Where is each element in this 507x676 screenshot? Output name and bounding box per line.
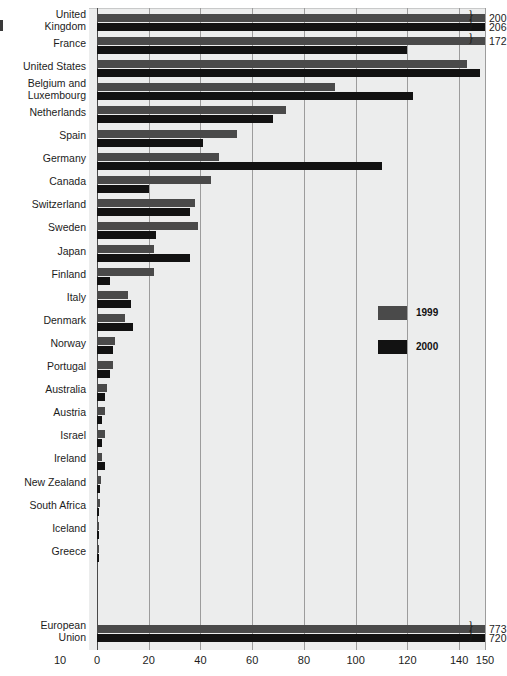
bar bbox=[97, 430, 105, 438]
x-tick-label-extra: 10 bbox=[40, 654, 80, 666]
bar bbox=[97, 83, 335, 91]
x-tick-label-100: 100 bbox=[336, 654, 376, 666]
category-label: United Kingdom bbox=[0, 9, 86, 32]
bar bbox=[97, 439, 102, 447]
category-label: Portugal bbox=[0, 361, 86, 373]
bar bbox=[97, 499, 100, 507]
gridline-20 bbox=[149, 8, 150, 650]
gridline-60 bbox=[252, 8, 253, 650]
bar bbox=[97, 407, 105, 415]
bar bbox=[97, 37, 485, 45]
bar bbox=[97, 92, 413, 100]
x-tick-label-120: 120 bbox=[387, 654, 427, 666]
category-label: Sweden bbox=[0, 222, 86, 234]
bar bbox=[97, 69, 480, 77]
x-tick-label-20: 20 bbox=[129, 654, 169, 666]
legend-swatch-1999 bbox=[378, 306, 407, 320]
x-tick-label-150: 150 bbox=[465, 654, 505, 666]
category-label: Spain bbox=[0, 130, 86, 142]
bar bbox=[97, 545, 99, 553]
bar bbox=[97, 314, 125, 322]
category-label: Belgium and Luxembourg bbox=[0, 78, 86, 101]
bar bbox=[97, 384, 107, 392]
category-label: Italy bbox=[0, 292, 86, 304]
bar bbox=[97, 393, 105, 401]
category-label: Switzerland bbox=[0, 199, 86, 211]
overflow-value-label: 206 bbox=[489, 23, 507, 32]
category-label: Finland bbox=[0, 269, 86, 281]
bar bbox=[97, 554, 99, 562]
bar bbox=[97, 106, 286, 114]
bar bbox=[97, 231, 156, 239]
bar bbox=[97, 153, 219, 161]
category-label: European Union bbox=[0, 620, 86, 643]
legend-label-1999: 1999 bbox=[416, 307, 438, 318]
bar bbox=[97, 370, 110, 378]
x-tick-label-40: 40 bbox=[180, 654, 220, 666]
bar bbox=[97, 323, 133, 331]
bar bbox=[97, 300, 131, 308]
category-label: Iceland bbox=[0, 523, 86, 535]
bar bbox=[97, 337, 115, 345]
bar bbox=[97, 416, 102, 424]
category-label: Japan bbox=[0, 246, 86, 258]
category-label: Denmark bbox=[0, 315, 86, 327]
bar bbox=[97, 522, 99, 530]
bar bbox=[97, 46, 407, 54]
gridline-100 bbox=[356, 8, 357, 650]
x-tick-label-80: 80 bbox=[284, 654, 324, 666]
bar bbox=[97, 245, 154, 253]
legend-label-2000: 2000 bbox=[416, 341, 438, 352]
bar bbox=[97, 361, 113, 369]
bar bbox=[97, 476, 101, 484]
category-label: Norway bbox=[0, 338, 86, 350]
category-label: Germany bbox=[0, 153, 86, 165]
bar bbox=[97, 531, 99, 539]
bar bbox=[97, 14, 485, 22]
legend-swatch-2000 bbox=[378, 340, 407, 354]
bar bbox=[97, 208, 190, 216]
bar bbox=[97, 185, 149, 193]
bar bbox=[97, 222, 198, 230]
axis-break-mark: } bbox=[468, 34, 474, 42]
bar bbox=[97, 60, 467, 68]
bar bbox=[97, 634, 485, 642]
x-tick-label-60: 60 bbox=[232, 654, 272, 666]
bar bbox=[97, 176, 211, 184]
overflow-value-label: 172 bbox=[489, 37, 507, 46]
bar bbox=[97, 485, 100, 493]
bar bbox=[97, 277, 110, 285]
bar bbox=[97, 453, 102, 461]
axis-break-mark: } bbox=[468, 20, 474, 28]
gridline-120 bbox=[407, 8, 408, 650]
gridline-40 bbox=[200, 8, 201, 650]
bar bbox=[97, 199, 195, 207]
category-label: Israel bbox=[0, 430, 86, 442]
bar bbox=[97, 346, 113, 354]
x-tick-label-0: 0 bbox=[77, 654, 117, 666]
category-label: Greece bbox=[0, 546, 86, 558]
category-label: Canada bbox=[0, 176, 86, 188]
bar bbox=[97, 291, 128, 299]
category-label: Netherlands bbox=[0, 107, 86, 119]
bar bbox=[97, 625, 485, 633]
bar bbox=[97, 508, 99, 516]
bar bbox=[97, 130, 237, 138]
bar bbox=[97, 162, 382, 170]
bar bbox=[97, 139, 203, 147]
category-label: South Africa bbox=[0, 500, 86, 512]
gridline-140 bbox=[459, 8, 460, 650]
bar bbox=[97, 462, 105, 470]
gridline-150 bbox=[485, 8, 486, 650]
bar bbox=[97, 268, 154, 276]
gridline-80 bbox=[304, 8, 305, 650]
overflow-value-label: 720 bbox=[489, 634, 507, 643]
category-label: Austria bbox=[0, 407, 86, 419]
category-label: New Zealand bbox=[0, 477, 86, 489]
category-label: Ireland bbox=[0, 453, 86, 465]
category-label: United States bbox=[0, 61, 86, 73]
category-label: Australia bbox=[0, 384, 86, 396]
bar bbox=[97, 115, 273, 123]
bar bbox=[97, 254, 190, 262]
